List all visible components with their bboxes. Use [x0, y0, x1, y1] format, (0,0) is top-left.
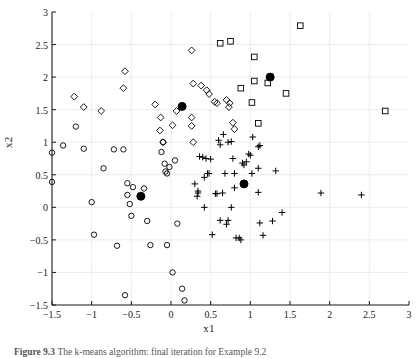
x-tick-label: −1 — [86, 309, 97, 320]
x-tick-label: 1.5 — [284, 309, 297, 320]
x-tick-label: 2.5 — [363, 309, 376, 320]
caption-text: The k-means algorithm: final iteration f… — [57, 347, 266, 357]
y-tick-label: −0.5 — [18, 234, 48, 245]
y-axis-label: x2 — [2, 137, 14, 148]
x-tick-label: 1 — [248, 309, 253, 320]
y-tick-label: −1 — [18, 267, 48, 278]
x-tick-label: 0 — [169, 309, 174, 320]
scatter-plot — [0, 0, 418, 358]
y-tick-label: 0.5 — [18, 169, 48, 180]
y-tick-label: 0 — [18, 202, 48, 213]
y-tick-label: 1 — [18, 137, 48, 148]
x-tick-label: 2 — [327, 309, 332, 320]
x-axis-label: x1 — [0, 322, 418, 334]
figure-container: x2 x1 −1.5−1−0.500.511.522.53−1.5−1−0.50… — [0, 0, 418, 358]
y-tick-label: 2.5 — [18, 39, 48, 50]
x-tick-label: 0.5 — [204, 309, 217, 320]
caption-number: Figure 9.3 — [14, 347, 55, 357]
x-tick-label: −1.5 — [43, 309, 61, 320]
x-tick-label: −0.5 — [122, 309, 140, 320]
y-tick-label: −1.5 — [18, 300, 48, 311]
y-tick-label: 1.5 — [18, 104, 48, 115]
y-tick-label: 2 — [18, 72, 48, 83]
y-tick-label: 3 — [18, 7, 48, 18]
figure-caption: Figure 9.3 The k-means algorithm: final … — [14, 347, 404, 358]
x-tick-label: 3 — [407, 309, 412, 320]
